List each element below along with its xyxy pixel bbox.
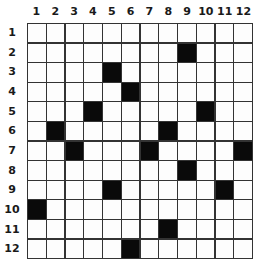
grid-cell[interactable] [47,220,65,238]
grid-cell[interactable] [47,142,65,160]
grid-cell[interactable] [197,63,215,81]
grid-cell[interactable] [141,161,159,179]
grid-cell[interactable] [197,44,215,62]
grid-cell[interactable] [28,181,46,199]
grid-cell[interactable] [122,24,140,42]
grid-cell[interactable] [103,240,121,258]
grid-cell[interactable] [122,122,140,140]
grid-cell-filled[interactable] [178,161,196,179]
grid-cell[interactable] [234,220,252,238]
grid-cell[interactable] [122,102,140,120]
grid-cell[interactable] [216,240,234,258]
grid-cell[interactable] [197,181,215,199]
grid-cell[interactable] [234,240,252,258]
grid-cell[interactable] [28,63,46,81]
grid-cell[interactable] [216,102,234,120]
grid-cell[interactable] [234,102,252,120]
grid-cell[interactable] [234,63,252,81]
grid-cell[interactable] [141,44,159,62]
grid-cell[interactable] [66,200,84,218]
grid-cell[interactable] [178,83,196,101]
grid-cell[interactable] [47,181,65,199]
grid-cell[interactable] [234,83,252,101]
grid-cell[interactable] [141,63,159,81]
grid-cell[interactable] [66,44,84,62]
grid-cell[interactable] [66,220,84,238]
grid-cell[interactable] [122,44,140,62]
grid-cell-filled[interactable] [159,220,177,238]
grid-cell[interactable] [234,181,252,199]
grid-cell[interactable] [216,63,234,81]
grid-cell[interactable] [141,220,159,238]
grid-cell[interactable] [216,220,234,238]
grid-cell[interactable] [66,240,84,258]
grid-cell[interactable] [47,83,65,101]
grid-cell[interactable] [234,122,252,140]
grid-cell[interactable] [178,181,196,199]
grid-cell[interactable] [84,83,102,101]
grid-cell[interactable] [178,24,196,42]
grid-cell[interactable] [103,200,121,218]
grid-cell[interactable] [28,220,46,238]
grid-cell[interactable] [84,161,102,179]
grid-cell[interactable] [178,220,196,238]
grid-cell[interactable] [178,142,196,160]
grid-cell[interactable] [159,83,177,101]
grid-cell[interactable] [103,102,121,120]
grid-cell[interactable] [159,181,177,199]
grid-cell[interactable] [28,24,46,42]
grid-cell-filled[interactable] [216,181,234,199]
grid-cell-filled[interactable] [197,102,215,120]
grid-cell[interactable] [159,161,177,179]
grid-cell[interactable] [28,102,46,120]
grid-cell[interactable] [122,161,140,179]
grid-cell[interactable] [47,24,65,42]
grid-cell[interactable] [141,181,159,199]
grid-cell[interactable] [159,24,177,42]
grid-cell[interactable] [122,63,140,81]
grid-cell[interactable] [197,142,215,160]
grid-cell-filled[interactable] [178,44,196,62]
grid-cell[interactable] [197,161,215,179]
grid-cell[interactable] [159,102,177,120]
grid-cell[interactable] [178,122,196,140]
grid-cell[interactable] [216,142,234,160]
grid-cell-filled[interactable] [141,142,159,160]
grid-cell[interactable] [47,102,65,120]
grid-cell[interactable] [66,122,84,140]
grid-cell[interactable] [216,83,234,101]
grid-cell[interactable] [122,142,140,160]
grid-cell[interactable] [178,102,196,120]
grid-cell[interactable] [122,200,140,218]
grid-cell[interactable] [234,24,252,42]
grid-cell[interactable] [216,122,234,140]
grid-cell[interactable] [84,122,102,140]
grid-cell[interactable] [141,122,159,140]
grid-cell[interactable] [84,142,102,160]
grid-cell[interactable] [159,200,177,218]
grid-cell[interactable] [197,220,215,238]
grid-cell[interactable] [178,240,196,258]
grid-cell[interactable] [234,200,252,218]
grid-cell[interactable] [66,102,84,120]
grid-cell[interactable] [103,220,121,238]
grid-cell-filled[interactable] [122,240,140,258]
grid-cell-filled[interactable] [103,63,121,81]
grid-cell[interactable] [66,83,84,101]
grid-cell[interactable] [47,240,65,258]
grid-cell[interactable] [216,161,234,179]
grid-cell[interactable] [159,240,177,258]
grid-cell[interactable] [178,63,196,81]
grid-cell-filled[interactable] [66,142,84,160]
grid-cell-filled[interactable] [28,200,46,218]
grid-cell[interactable] [28,83,46,101]
grid-cell[interactable] [197,200,215,218]
grid-cell[interactable] [84,63,102,81]
grid-cell[interactable] [66,161,84,179]
grid-cell[interactable] [28,161,46,179]
grid-cell[interactable] [197,122,215,140]
grid-cell[interactable] [103,83,121,101]
grid-cell[interactable] [141,83,159,101]
grid-cell-filled[interactable] [103,181,121,199]
grid-cell[interactable] [66,63,84,81]
